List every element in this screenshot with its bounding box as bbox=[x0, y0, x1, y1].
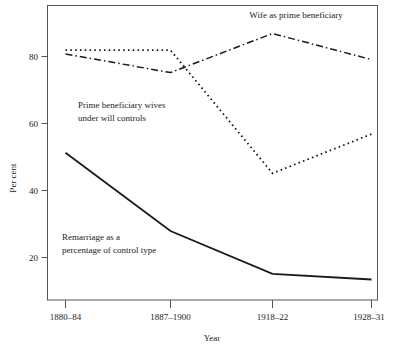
y-tick-label-60: 60 bbox=[29, 119, 39, 129]
annotation-remarriage-line1: Remarriage as a bbox=[62, 232, 120, 242]
y-tick-label-40: 40 bbox=[29, 186, 39, 196]
annotation-wife-as-prime-beneficiary: Wife as prime beneficiary bbox=[249, 10, 343, 20]
chart-background bbox=[0, 0, 398, 348]
x-tick-label-4: 1928–31 bbox=[353, 312, 385, 322]
x-tick-label-2: 1887–1900 bbox=[150, 312, 191, 322]
chart-figure: 80 60 40 20 Per cent 1880–84 1887–1900 1… bbox=[0, 0, 398, 348]
annotation-remarriage-line2: percentage of control type bbox=[62, 245, 156, 255]
annotation-prime-beneficiary-line2: under will controls bbox=[78, 113, 146, 123]
y-tick-label-20: 20 bbox=[29, 253, 39, 263]
x-axis-title: Year bbox=[204, 333, 221, 343]
x-tick-label-1: 1880–84 bbox=[50, 312, 82, 322]
y-tick-label-80: 80 bbox=[29, 52, 39, 62]
chart-svg: 80 60 40 20 Per cent 1880–84 1887–1900 1… bbox=[0, 0, 398, 348]
y-axis-title: Per cent bbox=[8, 163, 18, 193]
x-tick-label-3: 1918–22 bbox=[257, 312, 289, 322]
annotation-prime-beneficiary-line1: Prime beneficiary wives bbox=[78, 100, 166, 110]
